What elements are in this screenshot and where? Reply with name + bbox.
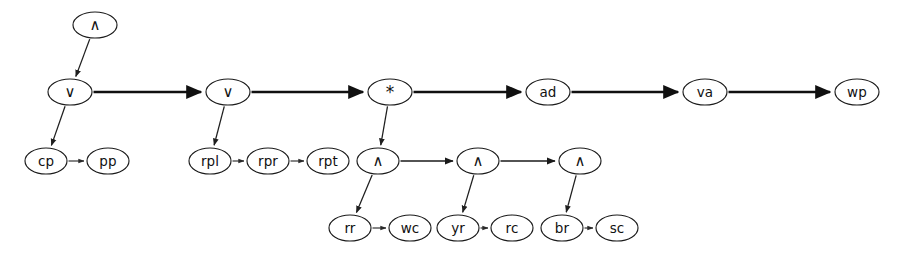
node-label-rpt: rpt — [318, 153, 338, 169]
graph-node-ad[interactable]: ad — [526, 79, 570, 105]
graph-node-and_2[interactable]: ∧ — [457, 148, 499, 174]
graph-node-rr[interactable]: rr — [329, 215, 371, 241]
graph-node-cp[interactable]: cp — [25, 148, 67, 174]
node-label-wp: wp — [847, 84, 867, 100]
node-label-wc: wc — [401, 220, 420, 236]
graph-node-wc[interactable]: wc — [389, 215, 431, 241]
graph-node-pp[interactable]: pp — [87, 148, 129, 174]
node-label-yr: yr — [451, 220, 465, 236]
graph-node-rpl[interactable]: rpl — [189, 148, 231, 174]
graph-edge-and_3-to-br — [566, 175, 576, 212]
node-label-ad: ad — [539, 84, 556, 100]
graph-node-rpr[interactable]: rpr — [247, 148, 289, 174]
edge-layer — [51, 39, 830, 228]
graph-edge-star-to-and_1 — [381, 106, 388, 145]
node-label-pp: pp — [99, 153, 116, 169]
node-label-and_2: ∧ — [472, 152, 483, 170]
node-label-br: br — [555, 220, 570, 236]
node-label-and_3: ∧ — [574, 152, 585, 170]
node-label-or_2: ∨ — [222, 83, 233, 101]
graph-node-va[interactable]: va — [683, 79, 727, 105]
graph-node-yr[interactable]: yr — [437, 215, 479, 241]
graph-edge-and_2-to-yr — [463, 175, 474, 212]
graph-edge-and_root-to-or_1 — [76, 39, 90, 76]
node-label-star: * — [386, 82, 395, 102]
graph-node-or_2[interactable]: ∨ — [206, 79, 250, 105]
graph-node-and_1[interactable]: ∧ — [357, 148, 399, 174]
and-or-graph-diagram: ∧∨cppp∨rplrprrpt*∧rrwc∧yrrc∧brscadvawp — [0, 0, 906, 254]
graph-node-br[interactable]: br — [541, 215, 583, 241]
node-label-rpr: rpr — [258, 153, 278, 169]
node-label-cp: cp — [38, 153, 54, 169]
node-label-and_root: ∧ — [89, 16, 100, 34]
graph-node-star[interactable]: * — [368, 79, 412, 105]
node-label-rpl: rpl — [201, 153, 219, 169]
graph-node-or_1[interactable]: ∨ — [48, 79, 92, 105]
graph-edge-or_2-to-rpl — [214, 106, 224, 145]
graph-node-and_root[interactable]: ∧ — [73, 12, 117, 38]
node-label-va: va — [697, 84, 713, 100]
graph-node-rc[interactable]: rc — [491, 215, 533, 241]
node-label-rc: rc — [506, 220, 519, 236]
node-label-or_1: ∨ — [64, 83, 75, 101]
node-label-and_1: ∧ — [372, 152, 383, 170]
graph-node-wp[interactable]: wp — [835, 79, 879, 105]
graph-node-sc[interactable]: sc — [596, 215, 638, 241]
node-label-sc: sc — [610, 220, 625, 236]
node-label-rr: rr — [344, 220, 355, 236]
graph-node-and_3[interactable]: ∧ — [559, 148, 601, 174]
graph-edge-and_1-to-rr — [356, 175, 372, 213]
graph-canvas: ∧∨cppp∨rplrprrpt*∧rrwc∧yrrc∧brscadvawp — [0, 0, 906, 254]
graph-edge-or_1-to-cp — [51, 106, 65, 145]
node-layer: ∧∨cppp∨rplrprrpt*∧rrwc∧yrrc∧brscadvawp — [25, 12, 879, 241]
graph-node-rpt[interactable]: rpt — [307, 148, 349, 174]
